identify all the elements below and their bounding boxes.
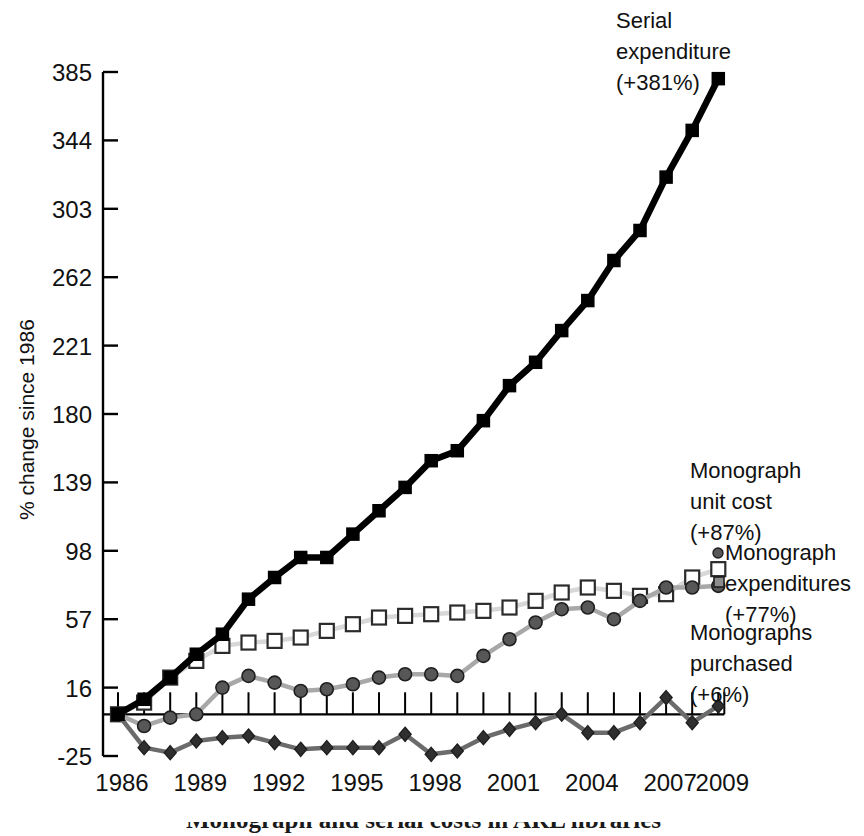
y-axis-tick-label: 16 [65,675,92,702]
data-point-marker [346,678,359,691]
data-point-marker [450,606,464,620]
data-point-marker [451,669,464,682]
data-point-marker [320,683,333,696]
data-point-marker [607,613,620,626]
data-point-marker [634,224,646,236]
data-point-marker [398,609,412,623]
data-point-marker [320,624,334,638]
x-axis-tick-label: 2001 [487,769,540,796]
y-axis-tick-label: 180 [52,401,92,428]
data-point-marker [216,628,228,640]
data-point-marker [556,325,568,337]
x-axis-tick-label: 1989 [174,769,227,796]
data-point-marker [190,648,202,660]
annotation-line: Monograph [690,458,801,483]
data-point-marker [503,633,516,646]
data-point-marker [504,380,516,392]
x-axis-tick-label: 1998 [409,769,462,796]
data-point-marker [477,415,489,427]
data-point-marker [242,636,256,650]
data-point-marker [476,604,490,618]
x-axis-tick-label: 2007 [643,769,696,796]
data-point-marker [216,681,229,694]
data-point-marker [294,684,307,697]
data-point-marker [686,124,698,136]
x-axis-tick-label: 1986 [95,769,148,796]
data-point-marker [269,571,281,583]
data-point-marker [373,505,385,517]
data-point-marker [686,581,699,594]
x-axis-tick-label: 1995 [330,769,383,796]
y-axis-tick-label: 139 [52,469,92,496]
annotation-line: Monographs [690,620,812,645]
y-axis-tick-label: 385 [52,59,92,86]
data-point-marker [164,711,177,724]
data-point-marker [164,672,176,684]
data-point-marker [711,562,725,576]
data-point-marker [529,594,543,608]
y-axis-title-group: % change since 1986 [15,319,38,520]
data-point-marker [138,719,151,732]
data-point-marker [451,445,463,457]
data-point-marker [530,356,542,368]
data-point-marker [268,676,281,689]
data-point-marker [399,481,411,493]
data-point-marker [242,669,255,682]
data-point-marker [138,693,150,705]
data-point-marker [372,611,386,625]
data-point-marker [321,551,333,563]
line-chart: 385344303262221180139985716-25 198619891… [0,0,864,836]
x-axis-tick-label: 1992 [252,769,305,796]
annotation-line: (+381%) [616,70,700,95]
y-axis-tick-label: -25 [57,743,92,770]
annotation-line: expenditures [725,571,851,596]
data-point-marker [425,455,437,467]
annotation-line: expenditure [616,39,731,64]
data-point-marker [660,171,672,183]
data-point-marker [582,295,594,307]
data-point-marker [425,668,438,681]
annotation-line: Monograph [725,540,836,565]
data-point-marker [346,617,360,631]
data-point-marker [529,616,542,629]
data-point-marker [607,584,621,598]
data-point-marker [112,708,124,720]
monograph-expenditures-legend-icon [713,548,723,558]
data-point-marker [243,593,255,605]
data-point-marker [555,603,568,616]
monograph-unit-cost-legend-icon [714,577,724,587]
annotation-line: (+6%) [690,682,749,707]
annotation-line: unit cost [690,489,772,514]
y-axis-tick-label: 344 [52,127,92,154]
data-point-marker [660,581,673,594]
data-point-marker [477,649,490,662]
figure-caption: Monograph and serial costs in ARL librar… [186,822,661,834]
annotation-line: Serial [616,8,672,33]
data-point-marker [503,601,517,615]
data-point-marker [295,551,307,563]
data-point-marker [634,594,647,607]
y-axis-tick-label: 303 [52,196,92,223]
data-point-marker [581,581,595,595]
annotation-line: purchased [690,651,793,676]
data-point-marker [294,631,308,645]
data-point-marker [424,607,438,621]
x-axis-tick-label: 2004 [565,769,618,796]
figure-caption-strip: Monograph and serial costs in ARL librar… [0,822,864,836]
data-point-marker [347,528,359,540]
y-axis-tick-label: 262 [52,264,92,291]
y-axis-tick-label: 221 [52,333,92,360]
data-point-marker [373,671,386,684]
y-axis-tick-label: 98 [65,538,92,565]
data-point-marker [399,668,412,681]
x-axis-tick-label: 2009 [696,769,749,796]
data-point-marker [712,73,724,85]
chart-container: 385344303262221180139985716-25 198619891… [0,0,864,836]
data-point-marker [581,601,594,614]
y-axis-title: % change since 1986 [15,319,38,520]
data-point-marker [555,586,569,600]
data-point-marker [190,708,203,721]
data-point-marker [608,255,620,267]
data-point-marker [268,634,282,648]
y-axis-tick-label: 57 [65,606,92,633]
